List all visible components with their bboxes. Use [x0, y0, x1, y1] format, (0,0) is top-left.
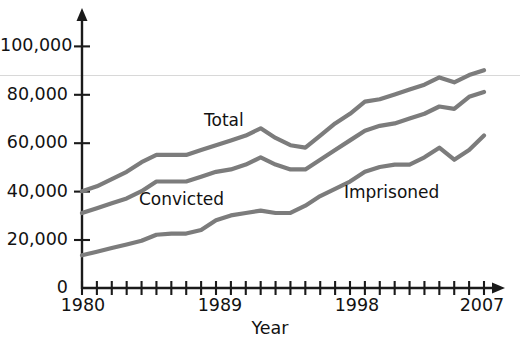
- series-label-total: Total: [204, 110, 244, 130]
- line-chart: 100,000 80,000 60,000 40,000 20,000 0 19…: [0, 0, 520, 345]
- y-tick-label-20000: 20,000: [0, 229, 68, 249]
- series-label-imprisoned: Imprisoned: [344, 182, 439, 202]
- chart-plot-area: [0, 0, 520, 345]
- y-tick-label-40000: 40,000: [0, 181, 68, 201]
- x-tick-label-1998: 1998: [327, 295, 387, 315]
- x-tick-label-2007: 2007: [452, 295, 512, 315]
- series-line-total: [82, 70, 484, 191]
- y-axis-arrow-icon: [77, 8, 88, 21]
- x-tick-label-1989: 1989: [190, 295, 250, 315]
- y-tick-label-100000: 100,000: [0, 35, 68, 55]
- x-axis-arrow-icon: [492, 283, 505, 294]
- x-tick-label-1980: 1980: [53, 295, 113, 315]
- y-tick-label-60000: 60,000: [0, 132, 68, 152]
- series-label-convicted: Convicted: [139, 189, 224, 209]
- x-axis-title: Year: [230, 318, 310, 338]
- data-series-group: [82, 70, 484, 255]
- y-tick-label-0: 0: [0, 277, 68, 297]
- y-tick-label-80000: 80,000: [0, 84, 68, 104]
